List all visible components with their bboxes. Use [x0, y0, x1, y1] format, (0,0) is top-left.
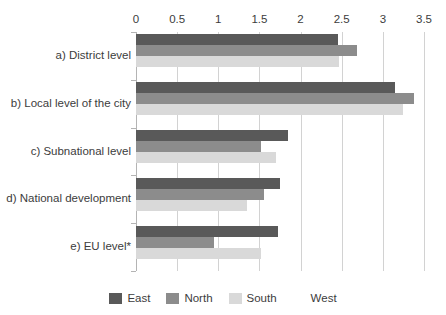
category-label-1: b) Local level of the city [1, 97, 131, 110]
chart-legend: EastNorthSouthWest [0, 288, 446, 308]
bar-4-east [136, 226, 278, 237]
bar-3-east [136, 178, 280, 189]
bar-chart: 00.511.522.533.5 a) District levelb) Loc… [0, 0, 446, 315]
legend-swatch-west [293, 293, 306, 304]
legend-item-west[interactable]: West [293, 292, 337, 305]
x-axis-tick-labels: 00.511.522.533.5 [0, 12, 446, 28]
bar-3-north [136, 189, 264, 200]
bar-1-east [136, 82, 395, 93]
x-tick-label-7: 3.5 [416, 12, 432, 26]
category-label-3: d) National development [1, 192, 131, 205]
bar-4-north [136, 237, 214, 248]
gridline-6 [383, 32, 384, 271]
legend-label-west: West [311, 292, 337, 305]
legend-label-north: North [184, 292, 212, 305]
x-tick-label-5: 2.5 [334, 12, 350, 26]
x-tick-label-2: 1 [215, 12, 221, 26]
gridline-7 [424, 32, 425, 271]
category-label-0: a) District level [1, 49, 131, 62]
legend-item-south[interactable]: South [229, 292, 277, 305]
category-tick-2 [131, 128, 136, 129]
x-tick-label-3: 1.5 [251, 12, 267, 26]
category-tick-end [131, 271, 136, 272]
bar-2-east [136, 130, 288, 141]
category-tick-3 [131, 175, 136, 176]
bar-1-north [136, 93, 414, 104]
gridline-5 [342, 32, 343, 271]
category-tick-1 [131, 80, 136, 81]
legend-label-east: East [127, 292, 150, 305]
legend-item-north[interactable]: North [166, 292, 212, 305]
category-label-2: c) Subnational level [1, 145, 131, 158]
bar-1-south [136, 104, 403, 115]
legend-item-east[interactable]: East [109, 292, 150, 305]
legend-swatch-east [109, 293, 122, 304]
bar-0-south [136, 56, 339, 67]
category-axis-labels: a) District levelb) Local level of the c… [0, 32, 131, 271]
bar-2-south [136, 152, 276, 163]
bar-0-north [136, 45, 357, 56]
bar-4-south [136, 248, 261, 259]
legend-label-south: South [247, 292, 277, 305]
plot-area [136, 32, 424, 271]
gridline-4 [301, 32, 302, 271]
category-tick-0 [131, 32, 136, 33]
bar-3-south [136, 200, 247, 211]
x-tick-label-6: 3 [380, 12, 386, 26]
legend-swatch-north [166, 293, 179, 304]
bar-2-north [136, 141, 261, 152]
legend-swatch-south [229, 293, 242, 304]
category-label-4: e) EU level* [1, 240, 131, 253]
x-tick-label-4: 2 [297, 12, 303, 26]
x-tick-label-1: 0.5 [169, 12, 185, 26]
category-tick-4 [131, 223, 136, 224]
x-tick-label-0: 0 [133, 12, 139, 26]
bar-0-east [136, 34, 338, 45]
